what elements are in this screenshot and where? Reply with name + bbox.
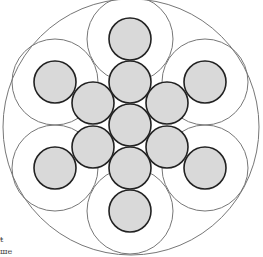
rope-cross-section-diagram: [0, 0, 263, 257]
inner-strand-circle: [72, 82, 114, 124]
inner-strand-circle: [146, 82, 188, 124]
center-strand-circle: [109, 104, 151, 146]
outer-strand-circle: [184, 147, 226, 189]
outer-strand-circle: [184, 61, 226, 103]
outer-strand-circle: [109, 190, 151, 232]
outer-strand-circle: [34, 147, 76, 189]
outer-strand-circle: [109, 18, 151, 60]
text-fragment-2: ше: [0, 248, 12, 256]
inner-strand-circle: [146, 126, 188, 168]
inner-strand-circle: [109, 147, 151, 189]
outer-strand-circle: [34, 61, 76, 103]
text-fragment-1: ŧ: [0, 236, 3, 244]
inner-strand-circle: [109, 61, 151, 103]
inner-strand-circle: [72, 126, 114, 168]
